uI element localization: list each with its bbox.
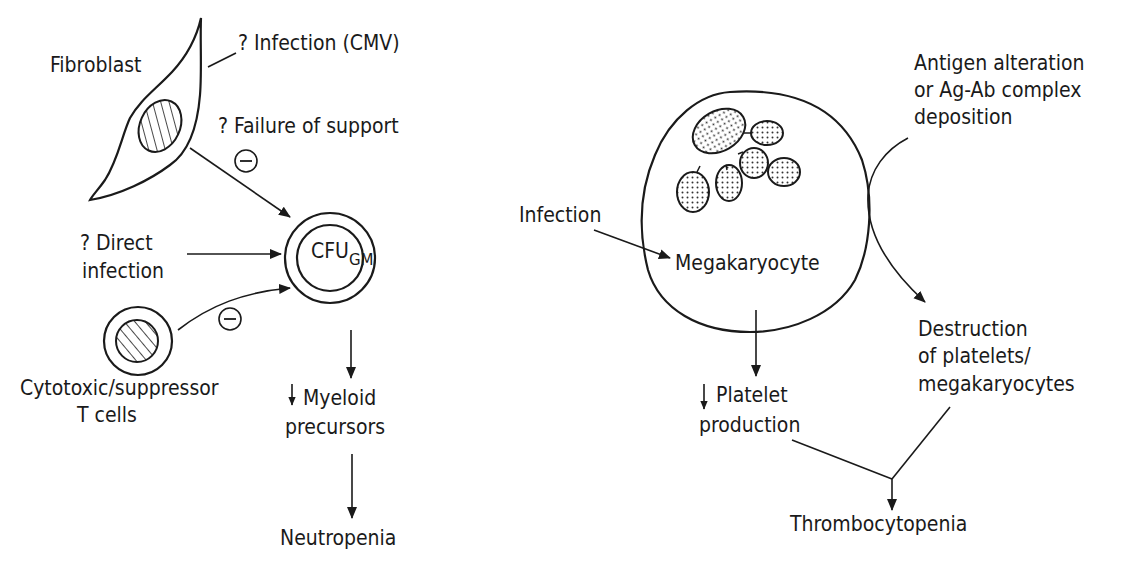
inhibit-icon-tcell bbox=[219, 308, 241, 330]
tcells-label-2: T cells bbox=[76, 403, 137, 427]
platelet-merge-line bbox=[792, 440, 892, 479]
destruction-label-2: of platelets/ bbox=[918, 344, 1031, 368]
infection-arrow bbox=[594, 230, 670, 258]
antigen-label-3: deposition bbox=[914, 105, 1012, 129]
platelet-label-2: production bbox=[699, 413, 800, 437]
diagram-canvas: Fibroblast ? Infection (CMV) ? Failure o… bbox=[0, 0, 1142, 562]
direct-infection-label-1: ? Direct bbox=[80, 231, 153, 255]
myeloid-label-2: precursors bbox=[285, 415, 385, 439]
failure-support-arrow bbox=[190, 148, 290, 217]
neutropenia-label: Neutropenia bbox=[280, 526, 396, 550]
infection-pointer-line bbox=[208, 53, 236, 67]
right-panel: Infection Megakaryocyte Antigen alterati… bbox=[519, 51, 1085, 536]
direct-infection-label-2: infection bbox=[82, 259, 164, 283]
cfu-gm-label: CFUGM bbox=[311, 239, 373, 269]
destruction-merge-line bbox=[892, 407, 950, 479]
infection-label: Infection bbox=[519, 203, 601, 227]
megakaryocyte-cell-icon bbox=[642, 91, 870, 332]
t-cell-icon bbox=[104, 307, 172, 375]
fibroblast-label: Fibroblast bbox=[50, 53, 142, 77]
antigen-label-1: Antigen alteration bbox=[914, 51, 1085, 75]
thrombocytopenia-label: Thrombocytopenia bbox=[789, 512, 967, 536]
megakaryocyte-label: Megakaryocyte bbox=[675, 251, 820, 275]
fibroblast-cell-icon bbox=[90, 18, 201, 200]
antigen-destruction-arrow bbox=[868, 138, 925, 302]
destruction-label-3: megakaryocytes bbox=[918, 372, 1075, 396]
tcells-label-1: Cytotoxic/suppressor bbox=[20, 376, 219, 400]
infection-cmv-label: ? Infection (CMV) bbox=[238, 31, 400, 55]
platelet-label-1: Platelet bbox=[716, 383, 788, 407]
inhibit-icon bbox=[235, 150, 257, 172]
destruction-label-1: Destruction bbox=[918, 317, 1028, 341]
left-panel: Fibroblast ? Infection (CMV) ? Failure o… bbox=[20, 18, 400, 550]
failure-support-label: ? Failure of support bbox=[218, 114, 399, 138]
antigen-label-2: or Ag-Ab complex bbox=[914, 78, 1082, 102]
myeloid-label-1: Myeloid bbox=[303, 386, 376, 410]
